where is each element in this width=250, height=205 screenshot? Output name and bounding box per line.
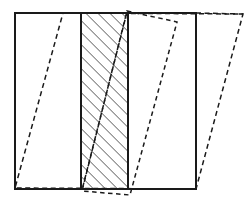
figure-container: Shear deformation diagram Rectangular bl… xyxy=(0,0,250,205)
shear-deformation-figure xyxy=(0,0,250,205)
